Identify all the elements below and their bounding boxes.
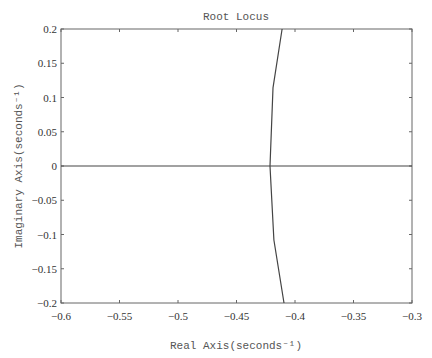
locus-lower-branch <box>270 166 284 303</box>
y-tick-label: 0 <box>52 160 58 172</box>
x-tick-label: −0.45 <box>224 310 250 322</box>
x-tick-label: −0.55 <box>107 310 133 322</box>
x-axis-label: Real Axis(seconds⁻¹) <box>170 340 302 352</box>
x-tick-label: −0.5 <box>168 310 188 322</box>
y-tick-label: −0.1 <box>37 229 57 241</box>
y-tick-label: −0.2 <box>37 297 57 309</box>
y-tick-label: 0.15 <box>38 57 58 69</box>
y-tick-label: −0.05 <box>32 194 58 206</box>
y-tick-label: 0.05 <box>38 126 58 138</box>
chart-title: Root Locus <box>203 11 269 23</box>
plot-area: −0.6−0.55−0.5−0.45−0.4−0.35−0.30.20.150.… <box>32 23 423 322</box>
locus-upper-branch <box>270 29 282 166</box>
y-axis-label: Imaginary Axis(seconds⁻¹) <box>13 83 25 248</box>
root-locus-chart: Root Locus −0.6−0.55−0.5−0.45−0.4−0.35−0… <box>0 0 432 358</box>
y-tick-label: −0.15 <box>32 263 58 275</box>
y-tick-label: 0.1 <box>43 92 57 104</box>
x-tick-label: −0.4 <box>285 310 305 322</box>
y-tick-label: 0.2 <box>43 23 57 35</box>
x-tick-label: −0.6 <box>51 310 71 322</box>
x-tick-label: −0.3 <box>402 310 422 322</box>
x-tick-label: −0.35 <box>341 310 367 322</box>
